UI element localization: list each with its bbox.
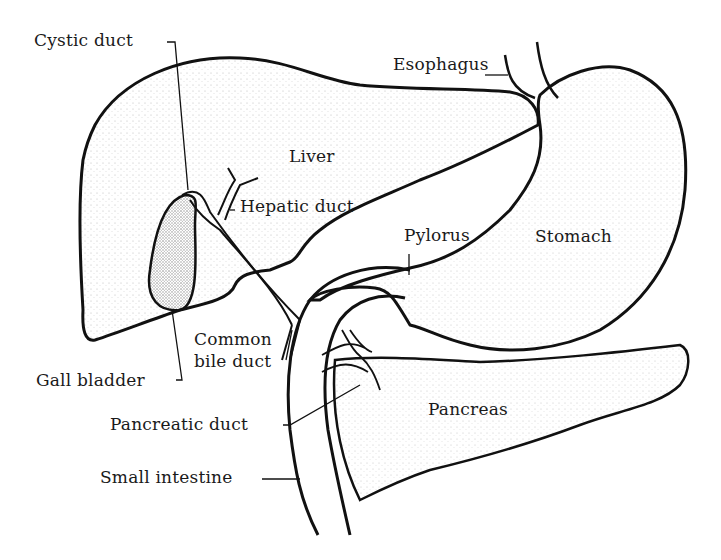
label-common-bile-duct-line1: Common	[194, 328, 272, 350]
label-cystic-duct: Cystic duct	[34, 30, 133, 50]
label-stomach: Stomach	[535, 226, 612, 246]
label-common-bile-duct: Common bile duct	[194, 328, 272, 372]
label-pylorus: Pylorus	[404, 225, 470, 245]
esophagus	[505, 42, 558, 98]
label-small-intestine: Small intestine	[100, 467, 232, 487]
label-common-bile-duct-line2: bile duct	[194, 350, 272, 372]
label-pancreas: Pancreas	[428, 399, 508, 419]
label-gall-bladder: Gall bladder	[36, 370, 145, 390]
label-pancreatic-duct: Pancreatic duct	[110, 414, 248, 434]
label-hepatic-duct: Hepatic duct	[240, 196, 354, 216]
leader-gall-bladder	[172, 310, 182, 380]
anatomy-diagram: Cystic duct Esophagus Liver Hepatic duct…	[0, 0, 721, 560]
label-esophagus: Esophagus	[393, 54, 489, 74]
label-liver: Liver	[289, 146, 335, 166]
pancreas	[334, 345, 688, 500]
